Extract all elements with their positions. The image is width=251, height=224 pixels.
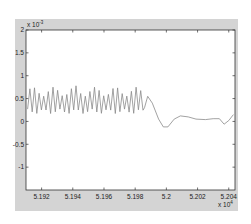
svg-text:2: 2 <box>20 26 24 33</box>
svg-text:5.192: 5.192 <box>33 193 50 200</box>
svg-text:0: 0 <box>20 118 24 125</box>
line-chart: 5.1925.1945.1965.1985.25.2025.20421.510.… <box>0 0 251 224</box>
svg-text:1.5: 1.5 <box>15 49 24 56</box>
svg-text:5.202: 5.202 <box>189 193 206 200</box>
svg-text:1: 1 <box>20 72 24 79</box>
x-exponent-label: x 104 <box>218 200 233 208</box>
svg-text:5.196: 5.196 <box>96 193 113 200</box>
svg-text:5.198: 5.198 <box>127 193 144 200</box>
svg-text:-1: -1 <box>18 163 24 170</box>
y-exponent-label: x 10-3 <box>27 20 44 28</box>
plot-area <box>26 30 235 190</box>
svg-text:5.194: 5.194 <box>65 193 82 200</box>
svg-text:-0.5: -0.5 <box>13 141 25 148</box>
svg-text:5.2: 5.2 <box>162 193 171 200</box>
svg-text:0.5: 0.5 <box>15 95 24 102</box>
svg-text:5.204: 5.204 <box>221 193 238 200</box>
